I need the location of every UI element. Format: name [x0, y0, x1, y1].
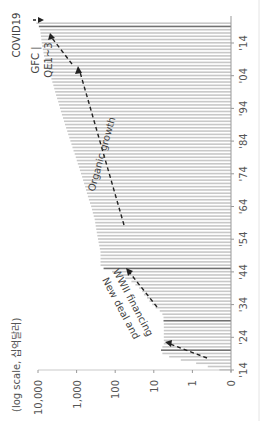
- bar-2006: [49, 68, 231, 70]
- bar-1919: [162, 353, 231, 355]
- bar-1957: [96, 228, 231, 230]
- annotation-label: COVID19: [11, 13, 22, 58]
- bar-2009: [45, 58, 231, 60]
- bar-1991: [63, 117, 231, 119]
- bar-1992: [62, 114, 231, 116]
- year-tick-label: '84: [238, 133, 249, 148]
- arrow-qe: [52, 38, 72, 64]
- bar-1974: [81, 173, 231, 175]
- annotation-label: GFC |: [30, 46, 42, 73]
- bar-1945: [104, 268, 231, 270]
- value-tick-label: 0: [226, 380, 237, 386]
- bar-1938: [142, 291, 231, 293]
- bar-1993: [61, 111, 231, 113]
- bar-1968: [87, 192, 231, 194]
- bar-1963: [92, 209, 231, 211]
- bar-1939: [139, 287, 231, 289]
- bar-2000: [54, 88, 231, 90]
- bar-1952: [99, 245, 231, 247]
- bar-1929: [164, 320, 231, 322]
- bar-1954: [98, 238, 231, 240]
- year-tick-label: '24: [238, 330, 249, 345]
- year-tick-label: '34: [238, 297, 249, 312]
- value-axis-ticks: 01101001,00010,000: [33, 370, 237, 415]
- bar-2010: [44, 55, 231, 57]
- bar-1989: [65, 124, 231, 126]
- bar-1983: [71, 143, 231, 145]
- bar-1967: [88, 196, 231, 198]
- arrow-early-growth: [170, 344, 207, 358]
- bar-1969: [86, 189, 231, 191]
- year-tick-label: '04: [238, 68, 249, 83]
- bar-1942: [125, 277, 231, 279]
- bar-1926: [164, 330, 231, 332]
- year-tick-label: '64: [238, 199, 249, 214]
- bar-1916: [196, 362, 231, 364]
- bar-1924: [164, 336, 231, 338]
- bar-1941: [131, 281, 231, 283]
- year-tick-label: '14: [238, 362, 249, 377]
- bar-1932: [160, 310, 231, 312]
- bar-1965: [90, 202, 231, 204]
- bar-2018: [40, 29, 231, 31]
- arrow-head-icon: [75, 66, 82, 74]
- bar-1996: [58, 101, 231, 103]
- value-tick-label: 1,000: [72, 380, 83, 409]
- bar-1961: [94, 215, 231, 217]
- bar-1935: [149, 300, 231, 302]
- bar-1928: [164, 323, 231, 325]
- bar-1934: [152, 304, 231, 306]
- bar-1925: [164, 333, 231, 335]
- bar-1953: [99, 241, 231, 243]
- bar-1995: [59, 104, 231, 106]
- bar-2017: [41, 32, 231, 34]
- bar-1933: [156, 307, 231, 309]
- bar-1948: [101, 258, 231, 260]
- year-axis-ticks: '14'24'34'44'54'64'74'84'94'04'14: [231, 35, 249, 377]
- year-tick-label: '44: [238, 264, 249, 279]
- bar-1943: [119, 274, 231, 276]
- bar-1959: [95, 222, 231, 224]
- bar-1994: [60, 107, 231, 109]
- bar-1999: [55, 91, 231, 93]
- bar-2001: [53, 85, 231, 87]
- bar-1951: [100, 248, 231, 250]
- bar-1985: [69, 137, 231, 139]
- bar-1947: [101, 261, 231, 263]
- bar-1956: [97, 232, 231, 234]
- bar-1984: [70, 140, 231, 142]
- unit-label: (log scale, 십억달러): [11, 318, 22, 412]
- bar-1986: [68, 134, 231, 136]
- bar-1972: [83, 179, 231, 181]
- bar-1923: [164, 340, 231, 342]
- unit-label-text: (log scale, 십억달러): [11, 318, 22, 412]
- bar-1998: [56, 94, 231, 96]
- bar-2014: [42, 42, 231, 44]
- year-tick-label: '94: [238, 101, 249, 116]
- year-tick-label: '14: [238, 35, 249, 50]
- bar-1988: [66, 127, 231, 129]
- bar-1987: [67, 130, 231, 132]
- bar-1917: [181, 359, 231, 361]
- bar-1920: [161, 349, 231, 351]
- rotated-bar-chart: 01101001,00010,000 '14'24'34'44'54'64'74…: [0, 0, 266, 421]
- bar-2013: [42, 45, 231, 47]
- bar-2012: [43, 49, 231, 51]
- bar-1962: [93, 212, 231, 214]
- bar-1950: [101, 251, 231, 253]
- bar-1960: [95, 219, 231, 221]
- bar-2011: [44, 52, 231, 54]
- bar-1955: [97, 235, 231, 237]
- bar-1982: [72, 147, 231, 149]
- bar-1918: [169, 356, 231, 358]
- year-tick-label: '54: [238, 231, 249, 246]
- bar-2003: [51, 78, 231, 80]
- value-tick-label: 10: [149, 380, 160, 393]
- bar-1958: [96, 225, 231, 227]
- bar-1936: [147, 297, 231, 299]
- bar-1930: [164, 317, 231, 319]
- annotation-label: QE1~3: [43, 42, 54, 77]
- bar-2004: [50, 75, 231, 77]
- bar-1970: [85, 186, 231, 188]
- bar-1931: [162, 313, 231, 315]
